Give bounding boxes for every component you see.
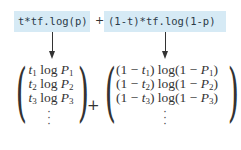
left-vector-row-3: t3 log P3 xyxy=(22,90,80,106)
right-vector-ellipsis: ··· xyxy=(160,110,170,128)
arrow-left-shaft xyxy=(52,32,53,52)
code-term-cross-entropy-negative: (1-t)*tf.log(1-p) xyxy=(104,11,226,32)
right-vector-close-paren: ) xyxy=(228,60,239,146)
arrow-right-head-icon xyxy=(162,51,168,59)
code-plus-operator: + xyxy=(95,14,104,27)
right-vector-row-3: (1 − t3) log(1 − P3) xyxy=(110,90,224,106)
arrow-left-head-icon xyxy=(49,51,55,59)
left-vector-ellipsis: ··· xyxy=(44,110,54,128)
code-term-cross-entropy-positive: t*tf.log(p) xyxy=(14,11,90,32)
vector-plus-operator: + xyxy=(87,96,100,114)
arrow-right-shaft xyxy=(165,32,166,52)
